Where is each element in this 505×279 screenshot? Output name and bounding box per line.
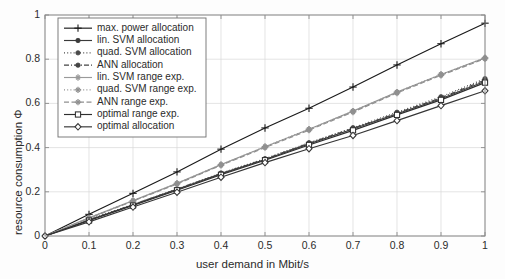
legend-sample-marker — [76, 51, 80, 55]
legend-sample-marker — [76, 63, 80, 67]
x-axis-title: user demand in Mbit/s — [0, 258, 505, 270]
legend-sample-marker — [75, 112, 80, 117]
x-tick-label: 0.9 — [426, 239, 456, 251]
legend-item-label: max. power allocation — [97, 22, 194, 33]
y-tick-label: 0.4 — [12, 141, 40, 153]
legend-item-label: optimal allocation — [97, 120, 174, 131]
x-tick-label: 0.5 — [250, 239, 280, 251]
x-tick-label: 0.2 — [118, 239, 148, 251]
y-tick-label: 0.2 — [12, 185, 40, 197]
y-tick-label: 1 — [12, 8, 40, 20]
x-tick-label: 0.4 — [206, 239, 236, 251]
legend-sample-marker — [76, 38, 80, 42]
legend-item-label: quad. SVM allocation — [97, 46, 192, 57]
x-tick-label: 0.1 — [74, 239, 104, 251]
plot-canvas — [0, 0, 505, 279]
x-tick-label: 0.8 — [382, 239, 412, 251]
y-tick-label: 0 — [12, 229, 40, 241]
y-tick-label: 0.8 — [12, 52, 40, 64]
x-tick-label: 0.7 — [338, 239, 368, 251]
x-tick-label: 0.6 — [294, 239, 324, 251]
legend-item-label: ANN allocation — [97, 59, 163, 70]
legend-item-label: lin. SVM allocation — [97, 34, 179, 45]
legend-item-label: lin. SVM range exp. — [97, 71, 184, 82]
legend-item-label: quad. SVM range exp. — [97, 83, 197, 94]
y-tick-label: 0.6 — [12, 96, 40, 108]
y-axis-title: resource consumption Φ — [12, 109, 24, 235]
legend-item-label: ANN range exp. — [97, 96, 168, 107]
x-tick-label: 1 — [470, 239, 500, 251]
x-tick-label: 0.3 — [162, 239, 192, 251]
chart-figure: user demand in Mbit/s resource consumpti… — [0, 0, 505, 279]
legend-item-label: optimal range exp. — [97, 108, 179, 119]
